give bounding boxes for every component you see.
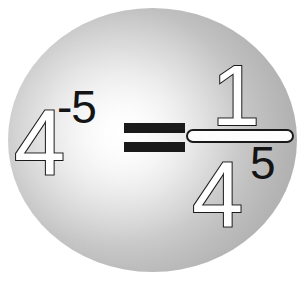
- fraction-numerator: 1: [212, 52, 260, 138]
- fraction-denominator-base: 4: [192, 148, 243, 240]
- equals-bar-top: [124, 123, 185, 133]
- equals-bar-bottom: [124, 142, 185, 152]
- fraction-denominator-exponent: 5: [250, 140, 276, 186]
- fraction-bar: [186, 129, 294, 143]
- equation-group: 4 -5 1 4 5: [0, 0, 305, 283]
- left-exponent: -5: [57, 84, 96, 130]
- image-canvas: 4 -5 1 4 5: [0, 0, 305, 283]
- equals-sign: [124, 123, 185, 153]
